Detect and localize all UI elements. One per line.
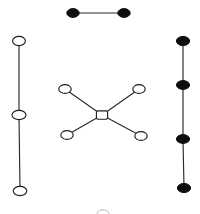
- graph-node: [133, 85, 145, 94]
- graph-node: [135, 132, 147, 141]
- graph-node: [12, 110, 26, 119]
- graph-node: [96, 111, 107, 119]
- graph-figure: [0, 0, 200, 214]
- graph-node: [177, 183, 190, 192]
- graph-node: [118, 9, 130, 18]
- graph-node: [176, 135, 189, 144]
- graph-node: [67, 9, 79, 18]
- graph-canvas: [0, 0, 200, 214]
- nodes-layer: [12, 9, 191, 214]
- graph-node: [61, 131, 73, 140]
- graph-node: [13, 186, 27, 195]
- graph-edge: [19, 115, 20, 191]
- graph-node: [176, 36, 189, 45]
- edges-layer: [19, 13, 184, 191]
- graph-node: [97, 210, 109, 214]
- graph-node: [13, 36, 26, 45]
- graph-node: [59, 85, 71, 94]
- graph-edge: [183, 139, 184, 188]
- graph-node: [176, 81, 189, 90]
